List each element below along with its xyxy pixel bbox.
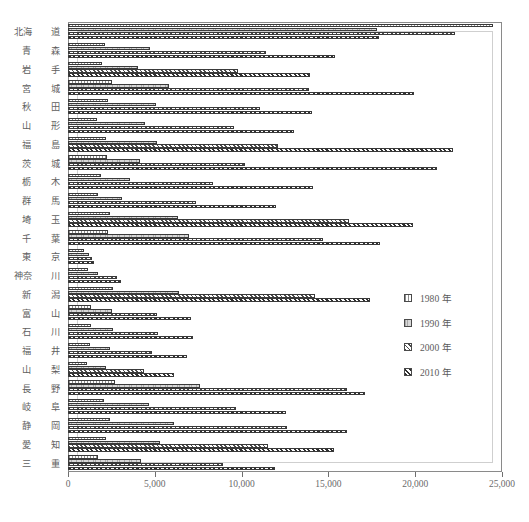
bar-神奈川-2010[interactable] — [68, 280, 121, 283]
bar-石川-2010[interactable] — [68, 336, 193, 339]
bar-富山-2010[interactable] — [68, 317, 191, 320]
legend-item-1980年[interactable]: 1980 年 — [404, 286, 500, 311]
bar-長野-2000[interactable] — [68, 388, 347, 391]
bar-長野-1990[interactable] — [68, 384, 200, 387]
bar-岐阜-2000[interactable] — [68, 407, 236, 410]
bar-栃木-2000[interactable] — [68, 182, 213, 185]
bar-秋田-2010[interactable] — [68, 111, 312, 114]
bar-茨城-1990[interactable] — [68, 159, 140, 162]
bar-長野-2010[interactable] — [68, 392, 365, 395]
bar-北海道-2000[interactable] — [68, 32, 455, 35]
bar-神奈川-2000[interactable] — [68, 276, 117, 279]
bar-秋田-1980[interactable] — [68, 99, 108, 102]
bar-茨城-2000[interactable] — [68, 163, 245, 166]
bar-岐阜-2010[interactable] — [68, 411, 286, 414]
bar-群馬-1980[interactable] — [68, 193, 98, 196]
bar-秋田-2000[interactable] — [68, 107, 260, 110]
bar-山梨-2000[interactable] — [68, 369, 144, 372]
bar-埼玉-1980[interactable] — [68, 212, 110, 215]
bar-富山-1990[interactable] — [68, 309, 112, 312]
bar-千葉-2010[interactable] — [68, 242, 380, 245]
bar-青森-2000[interactable] — [68, 51, 266, 54]
bar-青森-2010[interactable] — [68, 55, 335, 58]
bar-東京-2010[interactable] — [68, 261, 94, 264]
bar-福井-2010[interactable] — [68, 355, 187, 358]
bar-三重-2000[interactable] — [68, 463, 223, 466]
bar-北海道-1980[interactable] — [68, 24, 493, 27]
bar-三重-2010[interactable] — [68, 467, 275, 470]
bar-福島-2000[interactable] — [68, 144, 278, 147]
bar-岐阜-1980[interactable] — [68, 399, 104, 402]
bar-埼玉-2000[interactable] — [68, 219, 349, 222]
bar-栃木-1980[interactable] — [68, 174, 101, 177]
bar-山梨-1980[interactable] — [68, 362, 87, 365]
bar-山形-1990[interactable] — [68, 122, 145, 125]
bar-富山-2000[interactable] — [68, 313, 157, 316]
bar-愛知-1990[interactable] — [68, 441, 160, 444]
bar-神奈川-1990[interactable] — [68, 272, 98, 275]
bar-静岡-1990[interactable] — [68, 422, 174, 425]
bar-宮城-2010[interactable] — [68, 92, 414, 95]
bar-秋田-1990[interactable] — [68, 103, 156, 106]
bar-千葉-1990[interactable] — [68, 234, 189, 237]
bar-群馬-2000[interactable] — [68, 201, 196, 204]
bar-栃木-2010[interactable] — [68, 186, 313, 189]
bar-福井-2000[interactable] — [68, 351, 152, 354]
bar-北海道-1990[interactable] — [68, 28, 377, 31]
bar-愛知-1980[interactable] — [68, 437, 106, 440]
bar-石川-2000[interactable] — [68, 332, 158, 335]
bar-静岡-1980[interactable] — [68, 418, 110, 421]
bar-富山-1980[interactable] — [68, 305, 91, 308]
bar-静岡-2010[interactable] — [68, 430, 347, 433]
bar-岐阜-1990[interactable] — [68, 403, 149, 406]
bar-福島-1990[interactable] — [68, 141, 157, 144]
bar-静岡-2000[interactable] — [68, 426, 287, 429]
bar-埼玉-2010[interactable] — [68, 223, 413, 226]
bar-山形-2010[interactable] — [68, 130, 294, 133]
legend-item-2000年[interactable]: 2000 年 — [404, 335, 500, 360]
bar-三重-1990[interactable] — [68, 459, 141, 462]
bar-群馬-2010[interactable] — [68, 205, 276, 208]
bar-北海道-2010[interactable] — [68, 36, 379, 39]
bar-東京-1990[interactable] — [68, 253, 89, 256]
bar-福島-1980[interactable] — [68, 137, 106, 140]
bar-山形-2000[interactable] — [68, 126, 234, 129]
bar-山梨-1990[interactable] — [68, 366, 106, 369]
bar-岩手-2000[interactable] — [68, 69, 238, 72]
bar-千葉-1980[interactable] — [68, 230, 108, 233]
bar-岩手-2010[interactable] — [68, 73, 310, 76]
legend-item-2010年[interactable]: 2010 年 — [404, 360, 500, 385]
bar-青森-1980[interactable] — [68, 43, 105, 46]
bar-宮城-1980[interactable] — [68, 80, 112, 83]
bar-愛知-2000[interactable] — [68, 444, 268, 447]
bar-福井-1990[interactable] — [68, 347, 110, 350]
bar-神奈川-1980[interactable] — [68, 268, 88, 271]
bar-山梨-2010[interactable] — [68, 373, 174, 376]
bar-埼玉-1990[interactable] — [68, 216, 178, 219]
bar-青森-1990[interactable] — [68, 47, 150, 50]
bar-愛知-2010[interactable] — [68, 448, 334, 451]
legend-item-1990年[interactable]: 1990 年 — [404, 311, 500, 336]
bar-山形-1980[interactable] — [68, 118, 97, 121]
bar-三重-1980[interactable] — [68, 455, 98, 458]
bar-宮城-2000[interactable] — [68, 88, 309, 91]
bar-茨城-1980[interactable] — [68, 155, 107, 158]
bar-岩手-1990[interactable] — [68, 66, 138, 69]
bar-群馬-1990[interactable] — [68, 197, 122, 200]
bar-茨城-2010[interactable] — [68, 167, 437, 170]
bar-新潟-2000[interactable] — [68, 294, 315, 297]
bar-新潟-1990[interactable] — [68, 291, 179, 294]
bar-栃木-1990[interactable] — [68, 178, 130, 181]
bar-新潟-1980[interactable] — [68, 287, 113, 290]
bar-福井-1980[interactable] — [68, 343, 90, 346]
bar-宮城-1990[interactable] — [68, 84, 169, 87]
bar-福島-2010[interactable] — [68, 148, 453, 151]
bar-岩手-1980[interactable] — [68, 62, 102, 65]
bar-新潟-2010[interactable] — [68, 298, 370, 301]
bar-千葉-2000[interactable] — [68, 238, 323, 241]
bar-東京-1980[interactable] — [68, 249, 84, 252]
bar-東京-2000[interactable] — [68, 257, 92, 260]
bar-石川-1980[interactable] — [68, 324, 91, 327]
bar-石川-1990[interactable] — [68, 328, 113, 331]
bar-長野-1980[interactable] — [68, 380, 115, 383]
